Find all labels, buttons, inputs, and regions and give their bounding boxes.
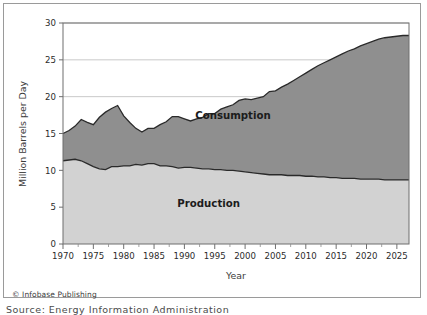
x-tick-label: 1985 — [143, 251, 165, 261]
x-tick-label: 1990 — [173, 251, 195, 261]
y-axis-ticks: 051015202530 — [45, 18, 63, 249]
x-tick-label: 1995 — [204, 251, 226, 261]
series-label: Production — [177, 198, 240, 209]
x-tick-label: 2020 — [356, 251, 378, 261]
series-label: Consumption — [195, 110, 271, 121]
x-axis-ticks: 1970197519801985199019952000200520102015… — [52, 244, 408, 261]
x-tick-label: 1980 — [113, 251, 135, 261]
oil-production-consumption-chart: 051015202530 197019751980198519901995200… — [4, 4, 422, 299]
source-note: Source: Energy Information Administratio… — [6, 304, 229, 315]
y-tick-label: 25 — [45, 55, 56, 65]
x-tick-label: 2010 — [295, 251, 317, 261]
x-tick-label: 2025 — [386, 251, 408, 261]
y-axis-title: Million Barrels per Day — [17, 81, 28, 187]
y-tick-label: 10 — [45, 166, 56, 176]
x-tick-label: 2015 — [325, 251, 347, 261]
y-tick-label: 0 — [51, 239, 56, 249]
y-tick-label: 20 — [45, 92, 56, 102]
y-tick-label: 15 — [45, 129, 56, 139]
x-tick-label: 1975 — [82, 251, 104, 261]
x-tick-label: 2005 — [265, 251, 287, 261]
x-tick-label: 2000 — [234, 251, 256, 261]
x-tick-label: 1970 — [52, 251, 74, 261]
copyright-notice: © Infobase Publishing — [12, 290, 97, 299]
y-tick-label: 5 — [51, 202, 56, 212]
x-axis-title: Year — [225, 270, 246, 281]
y-tick-label: 30 — [45, 18, 56, 28]
figure-frame: 051015202530 197019751980198519901995200… — [3, 3, 421, 298]
